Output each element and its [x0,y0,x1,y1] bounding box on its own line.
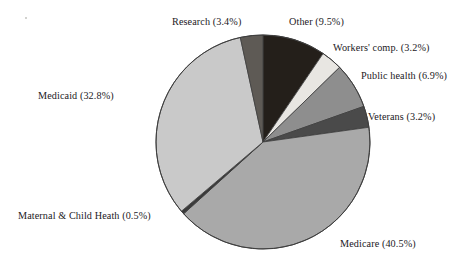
label-veterans: Veterans (3.2%) [368,111,435,123]
label-public-health: Public health (6.9%) [361,70,447,82]
label-research: Research (3.4%) [172,16,241,28]
pie-chart-figure: Research (3.4%) Other (9.5%) Workers' co… [0,0,472,267]
label-medicare: Medicare (40.5%) [340,238,416,250]
label-other: Other (9.5%) [289,16,344,28]
pie-svg [0,0,472,267]
label-medicaid: Medicaid (32.8%) [38,90,114,102]
label-workers-comp: Workers' comp. (3.2%) [333,42,429,54]
pie-chart-graphic [0,0,472,267]
pie-slice-group [156,35,370,249]
label-maternal-child-health: Maternal & Child Heath (0.5%) [18,210,151,222]
